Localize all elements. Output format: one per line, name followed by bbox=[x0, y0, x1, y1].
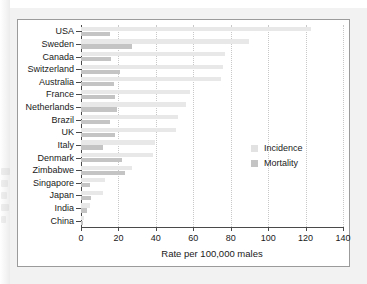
bar-mortality-netherlands bbox=[81, 107, 117, 111]
y-tick-italy bbox=[76, 145, 81, 146]
bar-mortality-italy bbox=[81, 145, 103, 149]
y-label-netherlands: Netherlands bbox=[25, 102, 74, 112]
y-label-japan: Japan bbox=[49, 190, 74, 200]
bar-mortality-france bbox=[81, 95, 115, 99]
y-tick-netherlands bbox=[76, 107, 81, 108]
y-label-china: China bbox=[50, 216, 74, 226]
legend-label-mortality: Mortality bbox=[264, 158, 298, 168]
y-label-uk: UK bbox=[61, 127, 74, 137]
y-tick-canada bbox=[76, 57, 81, 58]
x-tick-label-40: 40 bbox=[151, 233, 161, 243]
y-tick-brazil bbox=[76, 120, 81, 121]
y-axis-category-labels: USASwedenCanadaSwitzerlandAustraliaFranc… bbox=[0, 0, 74, 248]
bar-incidence-canada bbox=[81, 52, 225, 56]
bar-incidence-sweden bbox=[81, 39, 249, 43]
bar-incidence-uk bbox=[81, 128, 176, 132]
bar-mortality-singapore bbox=[81, 183, 90, 187]
x-tick-80 bbox=[231, 227, 232, 231]
x-tick-100 bbox=[268, 227, 269, 231]
bar-incidence-brazil bbox=[81, 115, 178, 119]
y-label-singapore: Singapore bbox=[33, 178, 74, 188]
bar-mortality-zimbabwe bbox=[81, 171, 125, 175]
x-tick-label-0: 0 bbox=[78, 233, 83, 243]
x-axis-line bbox=[81, 227, 343, 228]
y-label-sweden: Sweden bbox=[41, 39, 74, 49]
legend-item-mortality: Mortality bbox=[251, 158, 303, 168]
bar-mortality-japan bbox=[81, 196, 91, 200]
bar-mortality-australia bbox=[81, 82, 114, 86]
y-tick-france bbox=[76, 94, 81, 95]
bar-mortality-brazil bbox=[81, 120, 110, 124]
bar-mortality-denmark bbox=[81, 158, 122, 162]
bar-mortality-sweden bbox=[81, 44, 132, 48]
bar-mortality-usa bbox=[81, 32, 110, 36]
bar-incidence-netherlands bbox=[81, 102, 186, 106]
y-tick-uk bbox=[76, 132, 81, 133]
x-tick-label-100: 100 bbox=[261, 233, 276, 243]
legend-swatch-mortality-icon bbox=[251, 160, 258, 167]
x-axis-title: Rate per 100,000 males bbox=[81, 248, 343, 259]
y-tick-usa bbox=[76, 31, 81, 32]
bar-incidence-france bbox=[81, 90, 190, 94]
x-tick-0 bbox=[81, 227, 82, 231]
gridline-140 bbox=[343, 25, 344, 227]
x-tick-label-80: 80 bbox=[226, 233, 236, 243]
y-tick-japan bbox=[76, 195, 81, 196]
y-tick-singapore bbox=[76, 183, 81, 184]
bar-mortality-switzerland bbox=[81, 70, 120, 74]
bars-plot-area bbox=[81, 25, 343, 227]
bar-mortality-china bbox=[81, 221, 83, 225]
y-label-brazil: Brazil bbox=[51, 115, 74, 125]
legend-label-incidence: Incidence bbox=[264, 143, 303, 153]
bar-incidence-india bbox=[81, 203, 90, 207]
chart-legend: Incidence Mortality bbox=[251, 143, 303, 173]
bar-incidence-usa bbox=[81, 27, 311, 31]
y-tick-sweden bbox=[76, 44, 81, 45]
y-label-australia: Australia bbox=[39, 77, 74, 87]
y-tick-australia bbox=[76, 82, 81, 83]
x-tick-20 bbox=[118, 227, 119, 231]
y-label-france: France bbox=[46, 89, 74, 99]
x-tick-label-140: 140 bbox=[335, 233, 350, 243]
x-tick-120 bbox=[306, 227, 307, 231]
bar-incidence-japan bbox=[81, 191, 103, 195]
y-tick-denmark bbox=[76, 158, 81, 159]
x-tick-40 bbox=[156, 227, 157, 231]
y-label-denmark: Denmark bbox=[37, 153, 74, 163]
bar-incidence-australia bbox=[81, 77, 221, 81]
bar-incidence-zimbabwe bbox=[81, 166, 132, 170]
chart-screenshot: 020406080100120140 USASwedenCanadaSwitze… bbox=[0, 0, 367, 284]
bar-mortality-uk bbox=[81, 133, 115, 137]
x-tick-label-60: 60 bbox=[188, 233, 198, 243]
y-label-zimbabwe: Zimbabwe bbox=[32, 165, 74, 175]
y-tick-switzerland bbox=[76, 69, 81, 70]
bar-mortality-canada bbox=[81, 57, 111, 61]
x-tick-label-20: 20 bbox=[113, 233, 123, 243]
legend-item-incidence: Incidence bbox=[251, 143, 303, 153]
x-tick-60 bbox=[193, 227, 194, 231]
bar-incidence-switzerland bbox=[81, 65, 223, 69]
bar-incidence-singapore bbox=[81, 178, 105, 182]
bar-incidence-china bbox=[81, 216, 84, 220]
y-tick-india bbox=[76, 208, 81, 209]
x-tick-label-120: 120 bbox=[298, 233, 313, 243]
x-tick-140 bbox=[343, 227, 344, 231]
y-label-canada: Canada bbox=[42, 52, 74, 62]
legend-swatch-incidence-icon bbox=[251, 145, 258, 152]
y-label-usa: USA bbox=[55, 26, 74, 36]
y-label-switzerland: Switzerland bbox=[27, 64, 74, 74]
bar-incidence-denmark bbox=[81, 153, 153, 157]
y-tick-zimbabwe bbox=[76, 170, 81, 171]
bar-incidence-italy bbox=[81, 140, 155, 144]
y-label-india: India bbox=[54, 203, 74, 213]
y-tick-china bbox=[76, 221, 81, 222]
y-label-italy: Italy bbox=[57, 140, 74, 150]
bar-mortality-india bbox=[81, 208, 87, 212]
